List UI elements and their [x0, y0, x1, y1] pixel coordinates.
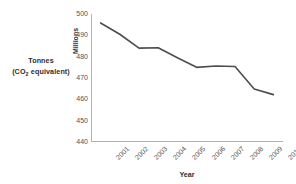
y-tick-label: 480 [66, 53, 88, 61]
data-line [101, 23, 274, 95]
caption-suffix: equivalent) [29, 67, 70, 76]
x-tick-label: 2010 [287, 145, 296, 161]
line-chart-figure: Tonnes (CO2 equivalent) Millions 5004904… [0, 0, 296, 184]
y-tick-label: 460 [66, 95, 88, 103]
data-series-group [101, 23, 274, 95]
x-tick-label: 2001 [114, 145, 130, 161]
y-tick-label: 450 [66, 117, 88, 125]
x-axis-title: Year [91, 170, 283, 179]
y-tick-label: 500 [66, 10, 88, 18]
x-tick-label: 2002 [133, 145, 149, 161]
plot-svg [91, 14, 283, 142]
x-tick-label: 2003 [153, 145, 169, 161]
x-tick-label: 2009 [268, 145, 284, 161]
x-axis-tick-labels: 2001200220032004200520062007200820092010 [91, 142, 283, 172]
y-tick-label: 470 [66, 74, 88, 82]
x-tick-label: 2004 [172, 145, 188, 161]
y-axis-tick-labels: 500490480470460450440 [66, 14, 88, 142]
y-tick-label: 490 [66, 31, 88, 39]
x-tick-label: 2006 [210, 145, 226, 161]
caption-prefix: (CO [12, 67, 25, 76]
x-tick-label: 2008 [249, 145, 265, 161]
plot-area [91, 14, 283, 142]
y-tick-label: 440 [66, 138, 88, 146]
x-tick-label: 2005 [191, 145, 207, 161]
axis-lines [91, 14, 283, 142]
x-tick-label: 2007 [229, 145, 245, 161]
caption-subscript: 2 [26, 71, 29, 77]
